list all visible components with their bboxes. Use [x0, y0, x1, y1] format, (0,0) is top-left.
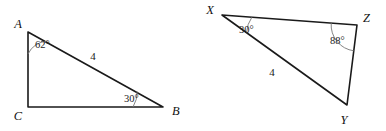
geometry-diagram-canvas: A C B 62° 30° 4 X Z Y 30° 88° 4 — [0, 0, 386, 131]
triangle-xyz: X Z Y 30° 88° 4 — [205, 3, 371, 127]
geometry-diagram-svg: A C B 62° 30° 4 X Z Y 30° 88° 4 — [0, 0, 386, 131]
vertex-label-a: A — [13, 17, 22, 31]
vertex-label-y: Y — [341, 113, 350, 127]
vertex-label-b: B — [172, 104, 180, 118]
angle-label-x: 30° — [239, 24, 254, 35]
vertex-label-c: C — [14, 109, 23, 123]
angle-label-a: 62° — [35, 39, 50, 50]
angle-label-b: 30° — [124, 93, 139, 104]
vertex-label-x: X — [205, 3, 215, 17]
side-label-xy: 4 — [269, 66, 275, 78]
triangle-abc: A C B 62° 30° 4 — [13, 17, 180, 123]
angle-label-z: 88° — [330, 35, 345, 46]
side-label-ab: 4 — [90, 50, 96, 62]
vertex-label-z: Z — [363, 11, 371, 25]
